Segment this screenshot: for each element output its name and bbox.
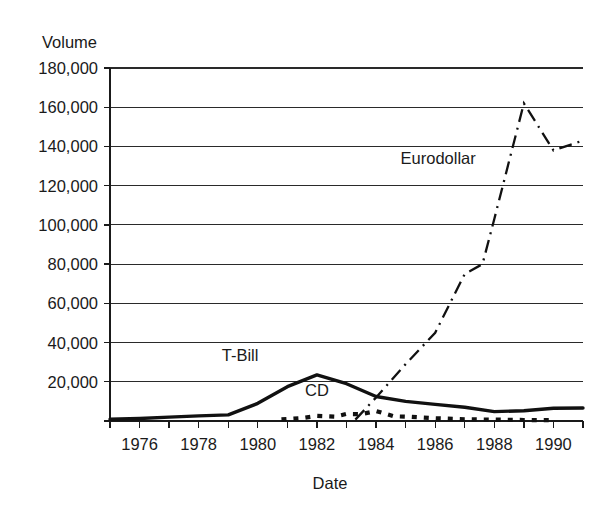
y-tick-label: 40,000: [48, 334, 98, 352]
x-tick-label: 1984: [358, 435, 395, 453]
series-label-eurodollar: Eurodollar: [401, 149, 477, 167]
data-series-group: [110, 103, 583, 420]
y-axis-title: Volume: [42, 33, 97, 51]
y-tick-label: 100,000: [38, 216, 98, 234]
x-tick-label: 1980: [239, 435, 276, 453]
y-tick-label: 160,000: [38, 98, 98, 116]
y-tick-label: 180,000: [38, 59, 98, 77]
volume-chart: 20,00040,00060,00080,000100,000120,00014…: [0, 0, 614, 511]
x-tick-label: 1982: [299, 435, 336, 453]
y-tick-label: 20,000: [48, 373, 98, 391]
series-label-t-bill: T-Bill: [222, 346, 259, 364]
chart-svg: 20,00040,00060,00080,000100,000120,00014…: [0, 0, 614, 511]
y-tick-label: 120,000: [38, 177, 98, 195]
x-tick-label: 1978: [180, 435, 217, 453]
y-tick-label: 80,000: [48, 255, 98, 273]
series-label-cd: CD: [305, 381, 329, 399]
x-tick-label: 1990: [535, 435, 572, 453]
y-axis: [104, 68, 110, 421]
x-axis: [110, 421, 583, 428]
x-axis-title: Date: [313, 474, 348, 492]
gridlines: [110, 68, 583, 382]
x-tick-label: 1988: [476, 435, 513, 453]
x-tick-label: 1986: [417, 435, 454, 453]
x-tick-labels: 19761978198019821984198619881990: [121, 435, 572, 453]
y-tick-label: 60,000: [48, 294, 98, 312]
y-tick-label: 140,000: [38, 137, 98, 155]
x-tick-label: 1976: [121, 435, 158, 453]
series-labels: T-BillEurodollarCD: [222, 149, 477, 399]
y-tick-labels: 20,00040,00060,00080,000100,000120,00014…: [38, 59, 98, 391]
